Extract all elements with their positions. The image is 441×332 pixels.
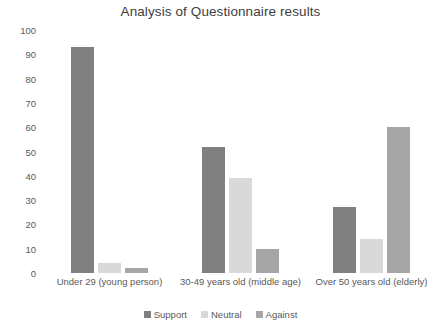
- y-axis-tick-label: 0: [31, 268, 36, 279]
- y-axis-tick-label: 70: [25, 97, 36, 108]
- plot-area: [44, 30, 437, 273]
- y-axis-tick-label: 60: [25, 122, 36, 133]
- chart-legend: SupportNeutralAgainst: [0, 309, 441, 320]
- legend-item-support[interactable]: Support: [144, 309, 187, 320]
- legend-item-against[interactable]: Against: [256, 309, 298, 320]
- legend-item-neutral[interactable]: Neutral: [201, 309, 242, 320]
- bar-group: [71, 30, 148, 273]
- bar-support[interactable]: [71, 47, 94, 273]
- bar-support[interactable]: [333, 207, 356, 273]
- bar-neutral[interactable]: [98, 263, 121, 273]
- y-axis: 0102030405060708090100: [0, 30, 40, 273]
- legend-swatch-icon: [256, 311, 263, 318]
- bar-against[interactable]: [125, 268, 148, 273]
- legend-label: Against: [266, 309, 298, 320]
- y-axis-tick-label: 50: [25, 146, 36, 157]
- bar-group: [202, 30, 279, 273]
- legend-swatch-icon: [201, 311, 208, 318]
- bar-chart: Analysis of Questionnaire results 010203…: [0, 0, 441, 332]
- bar-group: [333, 30, 410, 273]
- legend-label: Support: [154, 309, 187, 320]
- y-axis-tick-label: 10: [25, 243, 36, 254]
- x-axis-category-label: Over 50 years old (elderly): [316, 276, 428, 287]
- bar-against[interactable]: [387, 127, 410, 273]
- y-axis-tick-label: 80: [25, 73, 36, 84]
- x-axis-category-label: 30-49 years old (middle age): [180, 276, 301, 287]
- x-axis: Under 29 (young person)30-49 years old (…: [44, 276, 437, 294]
- legend-label: Neutral: [211, 309, 242, 320]
- y-axis-tick-label: 100: [20, 25, 36, 36]
- bar-neutral[interactable]: [229, 178, 252, 273]
- y-axis-tick-label: 40: [25, 170, 36, 181]
- x-axis-category-label: Under 29 (young person): [57, 276, 163, 287]
- bar-support[interactable]: [202, 147, 225, 273]
- y-axis-tick-label: 90: [25, 49, 36, 60]
- bar-against[interactable]: [256, 249, 279, 273]
- chart-title: Analysis of Questionnaire results: [0, 4, 441, 19]
- y-axis-tick-label: 20: [25, 219, 36, 230]
- bar-neutral[interactable]: [360, 239, 383, 273]
- legend-swatch-icon: [144, 311, 151, 318]
- y-axis-tick-label: 30: [25, 195, 36, 206]
